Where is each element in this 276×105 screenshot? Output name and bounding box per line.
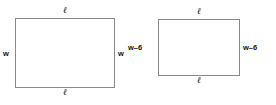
label-original-right-width: w <box>118 49 124 58</box>
label-original-bottom-length: ℓ <box>63 88 67 97</box>
diagram-canvas: ℓ ℓ w w ℓ ℓ w–6 w–6 <box>0 0 276 105</box>
label-reduced-bottom-length: ℓ <box>197 76 201 85</box>
label-original-left-width: w <box>3 49 9 58</box>
rectangle-reduced <box>158 19 240 76</box>
label-reduced-top-length: ℓ <box>197 7 201 16</box>
label-reduced-right-width: w–6 <box>243 43 257 52</box>
label-reduced-left-width: w–6 <box>128 43 142 52</box>
label-original-top-length: ℓ <box>63 6 67 15</box>
rectangle-original <box>15 18 115 88</box>
